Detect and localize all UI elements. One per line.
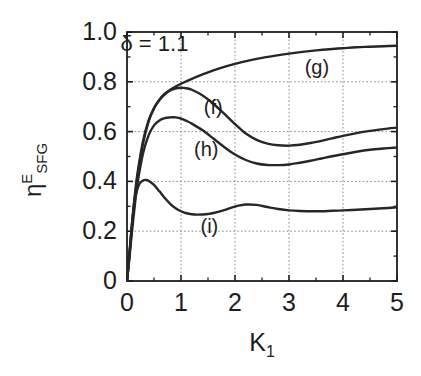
x-axis-title: K1 <box>212 330 312 355</box>
x-tick-label: 5 <box>372 290 421 315</box>
y-axis-title-subscript: SFG <box>33 143 50 174</box>
curve-i <box>127 180 397 281</box>
y-axis-title-symbol: η <box>19 184 46 197</box>
y-axis-title: ηESFG <box>21 115 45 225</box>
y-tick-label: 0.4 <box>82 168 117 193</box>
x-axis-title-symbol: K <box>249 328 266 356</box>
y-tick-label: 0.2 <box>82 218 117 243</box>
gridlines <box>127 32 397 281</box>
x-tick-label: 1 <box>156 290 206 315</box>
x-tick-label: 4 <box>318 290 368 315</box>
axis-ticks <box>127 32 397 281</box>
x-tick-label: 0 <box>102 290 152 315</box>
plot-canvas <box>0 0 421 376</box>
curve-label-i: (i) <box>200 216 218 236</box>
y-tick-label: 1.0 <box>82 19 117 44</box>
x-axis-title-subscript: 1 <box>266 343 275 360</box>
x-tick-label: 3 <box>264 290 314 315</box>
x-tick-label: 2 <box>210 290 260 315</box>
plot-frame <box>127 32 397 281</box>
chart-figure: 00.20.40.60.81.0 012345 ηESFG K1 δ = 1.1… <box>0 0 421 376</box>
y-axis-title-superscript: E <box>18 174 35 184</box>
curve-label-g: (g) <box>305 57 329 77</box>
curve-label-h: (h) <box>194 139 218 159</box>
curve-label-f: (f) <box>204 97 223 117</box>
y-tick-label: 0.6 <box>82 119 117 144</box>
y-tick-label: 0.8 <box>82 69 117 94</box>
delta-annotation: δ = 1.1 <box>120 33 188 55</box>
data-curves <box>127 46 397 281</box>
